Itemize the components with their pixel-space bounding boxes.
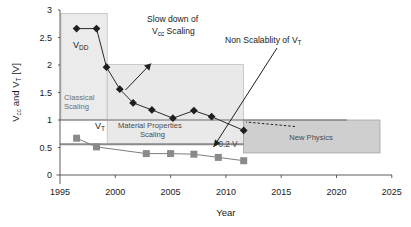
y-tick-label-0p5: 0.5 [39, 143, 52, 153]
x-tick-label-2025: 2025 [382, 187, 402, 197]
vt-point-1996 [73, 135, 80, 142]
y-tick-label-3: 3 [47, 5, 52, 15]
x-tick-label-2010: 2010 [216, 187, 236, 197]
x-tick-label-1995: 1995 [50, 187, 70, 197]
y-tick-label-2: 2 [47, 60, 52, 70]
region-label-material-line1: Material Properties [118, 121, 182, 130]
vt-point-2011 [240, 157, 247, 164]
region-label-classical-line2: Scaling [64, 102, 89, 111]
x-tick-label-2005: 2005 [161, 187, 181, 197]
region-label-material-line2: Scaling [140, 130, 165, 139]
x-tick-label-2015: 2015 [271, 187, 291, 197]
y-axis-title-unit: [V] [10, 63, 21, 77]
y-axis-title: Vcc and VT [V] [10, 63, 22, 122]
vt-point-2007 [190, 151, 197, 158]
region-label-new-physics-text: New Physics [289, 133, 333, 142]
x-axis-tick-labels: 1995 2000 2005 2010 2015 2020 2025 [50, 187, 402, 197]
y-tick-label-1p5: 1.5 [39, 88, 52, 98]
annotation-non-scalability-prefix: Non Scalablity of [225, 35, 292, 45]
region-label-classical-line1: Classical [64, 93, 95, 102]
vt-point-2005 [167, 150, 174, 157]
y-tick-label-2p5: 2.5 [39, 33, 52, 43]
series-label-vdd-sub: DD [79, 44, 89, 51]
chart-figure: 0 0.5 1 1.5 2 2.5 3 1995 2000 2005 2010 … [0, 0, 411, 227]
region-label-new-physics: New Physics [289, 133, 333, 142]
annotation-non-scalability-sub: T [298, 39, 302, 46]
annotation-slow-down-line2: Vcc Scaling [152, 26, 195, 37]
x-axis-title: Year [216, 207, 235, 218]
annotation-non-scalability-text: Non Scalablity of VT [225, 35, 302, 46]
x-axis-ticks [60, 175, 392, 184]
y-axis-tick-labels: 0 0.5 1 1.5 2 2.5 3 [39, 5, 52, 180]
y-axis-ticks [57, 10, 61, 175]
svg-text:Vcc and VT [V]: Vcc and VT [V] [10, 63, 22, 122]
series-label-vt-sub: T [101, 125, 105, 132]
y-tick-label-1: 1 [47, 115, 52, 125]
vt-point-1998 [93, 143, 100, 150]
vt-point-2002 [143, 150, 150, 157]
x-tick-label-2020: 2020 [326, 187, 346, 197]
y-tick-label-0: 0 [47, 170, 52, 180]
series-label-vt: VT [95, 121, 105, 132]
annotation-slow-down-line1: Slow down of [147, 14, 199, 24]
chart-canvas: 0 0.5 1 1.5 2 2.5 3 1995 2000 2005 2010 … [0, 0, 411, 227]
annotation-0p2v-label: 0.2 V [218, 140, 238, 149]
vt-point-2009 [215, 154, 222, 161]
y-axis-title-mid: and [10, 88, 21, 109]
x-tick-label-2000: 2000 [105, 187, 125, 197]
annotation-slow-down-vcc-rest: Scaling [164, 26, 195, 36]
